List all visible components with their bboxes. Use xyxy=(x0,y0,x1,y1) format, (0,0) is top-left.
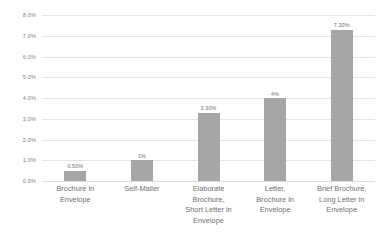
bar-wrapper: 1% xyxy=(131,160,153,181)
bar-group: 7.30% xyxy=(322,30,362,181)
plot-area: 0.50%1%3.30%4%7.30% xyxy=(42,15,375,181)
y-tick-label: 4.0% xyxy=(23,95,36,101)
bar-wrapper: 0.50% xyxy=(64,171,86,181)
x-category-label: Self-Mailer xyxy=(109,184,176,195)
bar-group: 0.50% xyxy=(55,171,95,181)
bar-chart: 0.0%1.0%2.0%3.0%4.0%5.0%6.0%7.0%8.0% 0.5… xyxy=(0,0,383,249)
bar-value-label: 4% xyxy=(271,91,279,97)
x-category-label: Elaborate Brochure, Short Letter in Enve… xyxy=(175,184,242,226)
y-tick-label: 2.0% xyxy=(23,137,36,143)
y-tick-label: 1.0% xyxy=(23,157,36,163)
y-tick-label: 3.0% xyxy=(23,116,36,122)
bar-group: 3.30% xyxy=(189,113,229,181)
y-tick-label: 7.0% xyxy=(23,33,36,39)
bar xyxy=(64,171,86,181)
bar-group: 4% xyxy=(255,98,295,181)
bar xyxy=(198,113,220,181)
bar-wrapper: 4% xyxy=(264,98,286,181)
bar-group: 1% xyxy=(122,160,162,181)
gridline xyxy=(42,15,375,16)
y-axis: 0.0%1.0%2.0%3.0%4.0%5.0%6.0%7.0%8.0% xyxy=(0,0,42,249)
x-axis: Brochure in EnvelopeSelf-MailerElaborate… xyxy=(42,184,375,246)
bar xyxy=(131,160,153,181)
bar-wrapper: 7.30% xyxy=(331,30,353,181)
bar-value-label: 0.50% xyxy=(67,163,83,169)
bar-value-label: 1% xyxy=(138,153,146,159)
x-category-label: Brief Brochure, Long Letter in Envelope xyxy=(308,184,375,216)
bar xyxy=(264,98,286,181)
bar-value-label: 7.30% xyxy=(334,22,350,28)
y-tick-label: 8.0% xyxy=(23,12,36,18)
y-tick-label: 6.0% xyxy=(23,54,36,60)
y-tick-label: 0.0% xyxy=(23,178,36,184)
x-category-label: Letter, Brochure in Envelope xyxy=(242,184,309,216)
bar-wrapper: 3.30% xyxy=(198,113,220,181)
gridline xyxy=(42,181,375,182)
bar xyxy=(331,30,353,181)
bar-value-label: 3.30% xyxy=(201,105,217,111)
x-category-label: Brochure in Envelope xyxy=(42,184,109,205)
y-tick-label: 5.0% xyxy=(23,74,36,80)
